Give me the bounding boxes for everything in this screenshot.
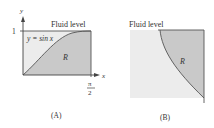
fluid-level-label-a: Fluid level	[51, 20, 86, 29]
x-tick-numerator: π	[88, 80, 92, 88]
y-tick-label: 1	[12, 27, 16, 36]
x-tick-denominator: 2	[88, 89, 92, 97]
x-axis-label: x	[101, 72, 106, 80]
fluid-level-label-b: Fluid level	[129, 20, 164, 29]
caption-b: (B)	[160, 113, 171, 122]
x-axis-arrow-icon	[94, 73, 100, 77]
region-label-a: R	[62, 53, 68, 62]
y-axis-arrow-icon	[21, 16, 25, 22]
panel-a: y 1 Fluid level y = sin x R x π 2 (A)	[12, 7, 106, 120]
caption-a: (A)	[51, 111, 62, 120]
curve-label: y = sin x	[26, 34, 54, 43]
region-label-b: R	[179, 57, 185, 66]
panel-b: Fluid level R (B)	[129, 20, 204, 122]
y-axis-label: y	[19, 7, 24, 15]
diagram-canvas: y 1 Fluid level y = sin x R x π 2 (A) Fl…	[0, 0, 214, 128]
